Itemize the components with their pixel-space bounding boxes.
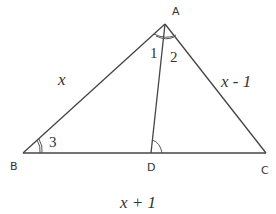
vertex-label-b: B <box>10 160 18 173</box>
angle-label-3: 3 <box>49 134 57 150</box>
side-label-bc: x + 1 <box>119 193 156 212</box>
side-label-ab: x <box>57 70 66 89</box>
vertex-label-d: D <box>147 161 155 174</box>
segment-ab <box>23 24 165 153</box>
side-label-ac: x - 1 <box>220 72 251 91</box>
vertex-label-a: A <box>172 5 180 18</box>
vertex-label-c: C <box>261 164 269 177</box>
segment-ad <box>151 24 165 153</box>
triangle-diagram: A B D C 1 2 3 x x - 1 x + 1 <box>0 0 276 214</box>
angle-arc-d <box>152 140 162 153</box>
angle-label-2: 2 <box>170 49 178 65</box>
angle-arc-b <box>37 140 40 153</box>
angle-label-1: 1 <box>150 45 158 61</box>
